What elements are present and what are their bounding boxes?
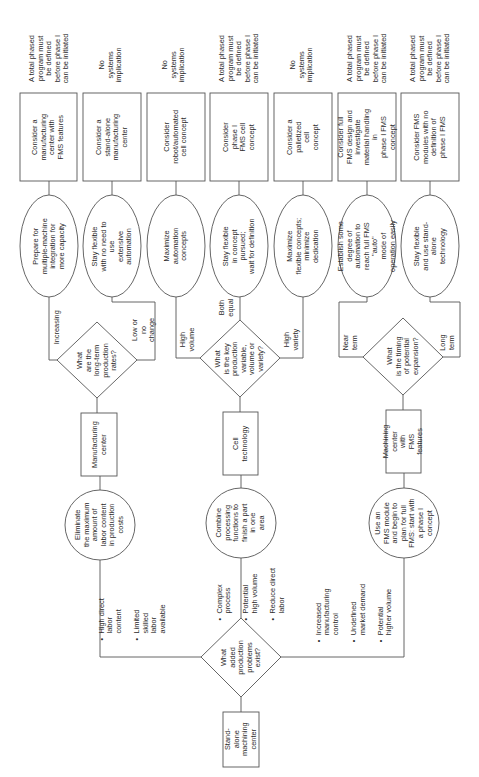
implication-label-1: A total phased program must be defined b…	[22, 26, 77, 90]
implication-label-3: No systems implication	[158, 40, 188, 90]
technology-label-3: Machining center with FMS features	[386, 410, 421, 473]
answer-label-1: Increasing	[50, 305, 64, 350]
action-label-7: Consider FMS modules with no definition …	[401, 93, 459, 181]
start-box-label: Stand-alone machining center	[223, 712, 259, 767]
implication-label-5: No systems implication	[286, 40, 316, 90]
branch-3-conditions: Increased manufacturing control Undefine…	[322, 565, 387, 655]
answer-label-3: High volume	[177, 325, 199, 355]
answer-label-4: Both equal	[216, 298, 238, 318]
implication-label-6: A total phased program must be defined b…	[340, 26, 395, 90]
action-label-1: Consider a manufacturing center with FMS…	[20, 93, 77, 181]
strategy-label-6: Establish some degree of automation to r…	[338, 195, 396, 297]
action-label-3: Consider robot/automated cell concept	[147, 93, 205, 181]
strategy-label-4: Stay flexible in concept pursued; wait f…	[210, 195, 268, 297]
answer-label-6: Near term	[340, 330, 362, 355]
branch-1-conditions: High direct labor content Limited skille…	[110, 580, 155, 655]
strategy-label-5: Maximize flexible concepts; minimize ded…	[274, 195, 332, 297]
action-label-5: Consider a palletized cell concept	[274, 93, 332, 181]
branch-2-conditions: Complex process Potential high volume Re…	[218, 560, 283, 620]
main-decision-label: What added production problems exist?	[201, 618, 281, 697]
action-label-4: Consider phase I FMS cell concept	[210, 93, 268, 181]
implication-label-4: A total phased program must be defined b…	[212, 26, 267, 90]
implication-label-7: A total phased program must be defined b…	[403, 26, 458, 90]
strategy-label-2: Stay flexible with no need to use extens…	[83, 195, 141, 297]
decision-label-2: What is the key production variable, vol…	[200, 320, 280, 397]
answer-label-2: Low or no change	[133, 305, 155, 355]
objective-label-1: Eliminate the maximum amount of labor co…	[65, 490, 135, 560]
strategy-label-1: Prepare for multiple-machine integration…	[20, 195, 78, 297]
answer-label-5: High variety	[281, 325, 303, 355]
objective-label-2: Combine processing functions to finish a…	[206, 488, 276, 558]
decision-label-1: What are the long-term production rates?	[57, 322, 137, 398]
strategy-label-3: Maximize automation concepts	[147, 195, 205, 297]
strategy-label-7: Stay flexible and use stand-alone techno…	[401, 195, 459, 297]
technology-label-2: Cell technology	[223, 412, 258, 475]
action-label-6: Consider full FMS design and investigate…	[338, 93, 396, 181]
objective-label-3: Use an FMS module and begin to plan for …	[369, 488, 439, 558]
implication-label-2: No systems implication	[95, 40, 125, 90]
action-label-2: Consider a stand-alone manufacturing cen…	[83, 93, 141, 181]
answer-label-7: Long term	[437, 330, 459, 355]
technology-label-1: Manufacturing center	[81, 413, 117, 476]
decision-label-3: What is the timing of potential expansio…	[363, 318, 443, 395]
